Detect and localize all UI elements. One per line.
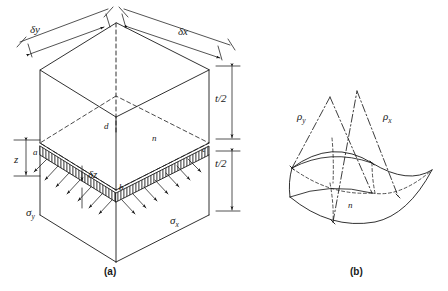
label-delta-y: δy [30, 23, 40, 35]
label-point-a: a [33, 147, 38, 157]
label-z-depth: z [13, 153, 19, 165]
caption-panel-a: (a) [104, 266, 116, 277]
label-t-half-upper: t/2 [215, 92, 227, 104]
figure-background [0, 0, 448, 291]
caption-panel-b: (b) [350, 266, 363, 277]
label-point-n-a: n [152, 133, 157, 143]
engineering-figure-svg: δy δx t/2 t/2 z δz a b c d n σy σx (a) [0, 0, 448, 291]
label-point-b: b [119, 182, 124, 192]
label-point-c: c [202, 144, 206, 154]
label-delta-x: δx [178, 25, 188, 37]
figure-container: δy δx t/2 t/2 z δz a b c d n σy σx (a) [0, 0, 448, 291]
label-point-n-b: n [348, 200, 353, 210]
label-delta-z: δz [88, 168, 98, 180]
label-t-half-lower: t/2 [215, 157, 227, 169]
label-point-d: d [104, 121, 109, 131]
